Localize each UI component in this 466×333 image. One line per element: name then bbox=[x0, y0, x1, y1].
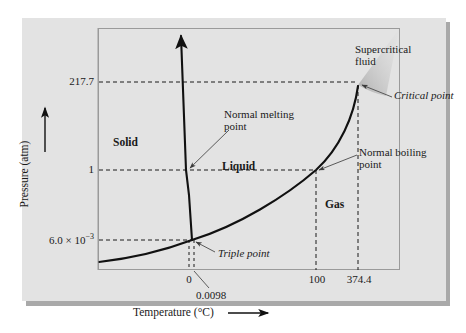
sublimation-curve bbox=[99, 240, 192, 262]
phase-diagram-figure: 217.7 1 6.0 × 10−3 0 0.0098 100 374.4 Te… bbox=[0, 0, 466, 333]
region-label-supercritical-fluid: Supercriticalfluid bbox=[355, 43, 411, 68]
normal-boiling-point-line2: point bbox=[359, 158, 382, 170]
supercritical-label-line1: Supercritical bbox=[355, 43, 411, 55]
region-label-solid: Solid bbox=[113, 136, 138, 149]
region-label-liquid: Liquid bbox=[222, 160, 255, 173]
callout-normal-boiling-point: Normal boilingpoint bbox=[359, 146, 427, 171]
x-axis-title: Temperature (°C) bbox=[133, 306, 214, 319]
supercritical-label-line2: fluid bbox=[355, 55, 376, 67]
normal-melting-point-line2: point bbox=[224, 120, 247, 132]
y-tick-triple-mantissa: 6.0 × 10 bbox=[49, 234, 85, 246]
callout-normal-melting-point: Normal meltingpoint bbox=[224, 108, 294, 133]
callout-triple-point: Triple point bbox=[218, 247, 270, 259]
y-tick-1atm-label: 1 bbox=[42, 163, 94, 175]
normal-boiling-point-line1: Normal boiling bbox=[359, 146, 427, 158]
x-tick-zero-label: 0 bbox=[175, 273, 203, 285]
y-tick-217-label: 217.7 bbox=[42, 75, 94, 87]
callout-critical-point: Critical point bbox=[394, 89, 454, 101]
y-axis-title: Pressure (atm) bbox=[18, 124, 30, 224]
fusion-curve bbox=[181, 36, 192, 240]
normal-melting-point-line1: Normal melting bbox=[224, 108, 294, 120]
leader-triple-point bbox=[196, 242, 215, 252]
x-tick-3744-label: 374.4 bbox=[338, 273, 380, 285]
x-tick-triple-label: 0.0098 bbox=[182, 289, 240, 301]
y-tick-triple-label: 6.0 × 10−3 bbox=[20, 233, 94, 246]
x-tick-100-label: 100 bbox=[302, 273, 332, 285]
y-tick-triple-exponent: −3 bbox=[85, 232, 94, 241]
region-label-gas: Gas bbox=[325, 198, 344, 211]
